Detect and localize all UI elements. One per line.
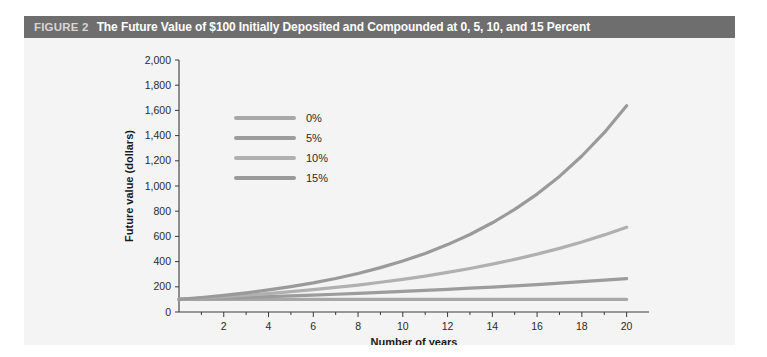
figure-title: The Future Value of $100 Initially Depos…	[97, 20, 590, 34]
y-tick-label: 2,000	[145, 54, 171, 66]
x-tick-label: 4	[266, 320, 272, 332]
x-tick-label: 8	[355, 320, 361, 332]
x-tick-label: 10	[397, 320, 409, 332]
figure-number-label: FIGURE 2	[34, 21, 89, 33]
x-axis-title: Number of years	[371, 336, 458, 345]
x-tick-label: 16	[531, 320, 543, 332]
y-tick-label: 0	[165, 306, 171, 318]
figure-title-bar: FIGURE 2 The Future Value of $100 Initia…	[24, 16, 735, 38]
y-tick-label: 1,000	[145, 180, 171, 192]
y-tick-label: 1,400	[145, 129, 171, 141]
x-tick-label: 12	[442, 320, 454, 332]
y-tick-label: 1,800	[145, 79, 171, 91]
figure-container: FIGURE 2 The Future Value of $100 Initia…	[0, 0, 767, 357]
chart-area: 02004006008001,0001,2001,4001,6001,8002,…	[24, 38, 735, 345]
y-tick-label: 1,200	[145, 154, 171, 166]
x-tick-label: 18	[576, 320, 588, 332]
x-tick-label: 14	[486, 320, 498, 332]
y-tick-label: 600	[153, 230, 171, 242]
line-chart: 02004006008001,0001,2001,4001,6001,8002,…	[24, 38, 735, 345]
legend-label-5pct: 5%	[306, 132, 322, 144]
legend-label-10pct: 10%	[306, 152, 328, 164]
series-line-15pct	[179, 106, 627, 300]
y-tick-label: 400	[153, 255, 171, 267]
legend-label-0pct: 0%	[306, 112, 322, 124]
x-tick-label: 6	[310, 320, 316, 332]
legend-label-15pct: 15%	[306, 172, 328, 184]
x-tick-label: 20	[621, 320, 633, 332]
y-tick-label: 800	[153, 205, 171, 217]
series-line-10pct	[179, 227, 627, 299]
x-tick-label: 2	[221, 320, 227, 332]
y-axis-title: Future value (dollars)	[123, 130, 135, 242]
y-tick-label: 1,600	[145, 104, 171, 116]
y-tick-label: 200	[153, 280, 171, 292]
